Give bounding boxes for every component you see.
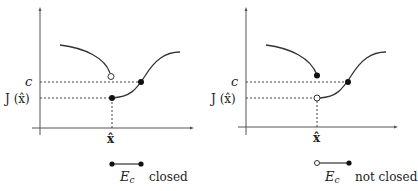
status-label: closed [149,170,188,184]
set-label: Ec [324,169,340,185]
y-tick-J: J (x̂) [209,92,236,106]
segment-left-open-icon [315,161,320,166]
x-axis-arrow-icon [190,127,194,130]
y-axis-arrow-icon [39,7,42,11]
left-panel: c J (x̂) x̂ Ec closed [3,7,194,185]
diagram-canvas: c J (x̂) x̂ Ec closed c J (x̂) x̂ Ec not… [0,0,418,191]
filled-endpoint-icon [314,73,320,79]
open-endpoint-icon [108,74,114,80]
curve-lower-branch [320,52,386,98]
y-tick-c: c [25,74,33,89]
filled-endpoint-icon [109,95,115,101]
segment-right-filled-icon [138,161,143,166]
x-tick-xhat: x̂ [313,131,321,145]
y-tick-c: c [231,74,239,89]
x-tick-xhat: x̂ [107,132,115,146]
curve-lower-branch [112,52,180,98]
set-label: Ec [119,169,135,185]
status-label: not closed [355,170,418,184]
y-axis-arrow-icon [245,7,248,11]
c-intersection-dot-icon [138,79,144,85]
right-panel: c J (x̂) x̂ Ec not closed [209,7,418,185]
curve-upper-branch [60,45,110,73]
x-axis-arrow-icon [394,126,398,129]
y-tick-J: J (x̂) [3,92,30,106]
segment-right-filled-icon [346,160,351,165]
segment-left-filled-icon [109,161,114,166]
open-endpoint-icon [314,95,320,101]
curve-upper-branch [266,45,317,75]
c-intersection-dot-icon [345,79,351,85]
